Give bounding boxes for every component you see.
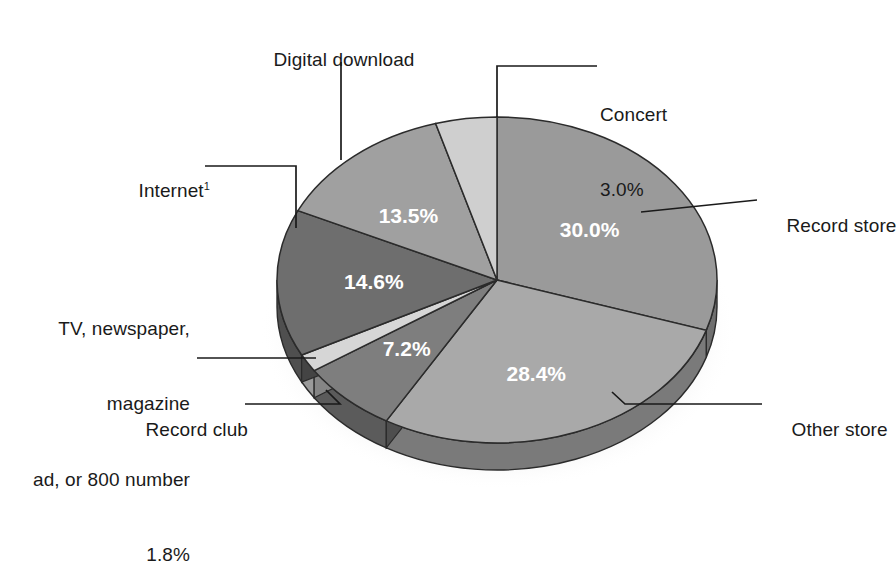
callout-digital-download: Digital download <box>252 22 415 97</box>
callout-digital-download-label: Digital download <box>274 49 415 70</box>
leader-concert <box>497 66 597 117</box>
callout-tv-ad-line2: magazine <box>0 391 190 416</box>
callout-tv-ad: TV, newspaper, magazine ad, or 800 numbe… <box>0 266 190 565</box>
callout-record-store-label: Record store <box>787 215 896 236</box>
callout-concert-label: Concert <box>600 102 667 127</box>
callout-tv-ad-line1: TV, newspaper, <box>0 316 190 341</box>
callout-other-store: Other store <box>770 392 888 467</box>
callout-other-store-label: Other store <box>792 419 888 440</box>
slice-value-label: 14.6% <box>344 270 404 293</box>
callout-concert-value: 3.0% <box>600 177 667 202</box>
callout-tv-ad-line3: ad, or 800 number <box>0 467 190 492</box>
callout-record-store: Record store <box>765 188 896 263</box>
callout-concert: Concert 3.0% <box>600 52 667 253</box>
leader-internet <box>205 166 296 228</box>
slice-value-label: 28.4% <box>506 362 566 385</box>
slice-value-label: 13.5% <box>379 204 439 227</box>
slice-value-label: 7.2% <box>383 337 431 360</box>
callout-internet-footnote: 1 <box>204 180 210 192</box>
callout-internet-label: Internet <box>139 180 204 201</box>
callout-internet: Internet1 <box>117 153 210 228</box>
callout-tv-ad-value: 1.8% <box>0 542 190 565</box>
